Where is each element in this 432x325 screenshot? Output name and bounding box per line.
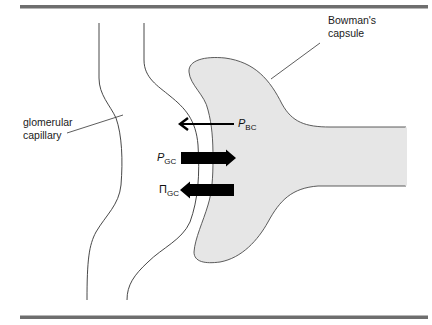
pigc-arrow-icon	[180, 182, 234, 199]
glomerular-capillary-leader	[67, 115, 123, 133]
bowmans-capsule-label-line1: Bowman's	[328, 14, 376, 26]
glomerulus-diagram: Bowman's capsule glomerular capillary PB…	[0, 0, 432, 325]
bottom-rule-bar	[20, 316, 428, 320]
bowmans-capsule-label-line2: capsule	[328, 27, 364, 39]
capillary-wall-outer	[87, 23, 122, 300]
glomerular-capillary-label-line2: capillary	[23, 129, 62, 141]
pgc-arrow-icon	[181, 150, 236, 167]
top-rule-bar	[20, 5, 428, 9]
bowmans-capsule-leader	[271, 43, 320, 79]
pgc-label: PGC	[157, 151, 177, 166]
glomerular-capillary-label-line1: glomerular	[23, 116, 73, 128]
pigc-label: ΠGC	[159, 183, 179, 198]
